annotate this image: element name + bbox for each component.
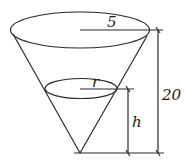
label-water-height: h — [132, 113, 142, 131]
label-cone-height: 20 — [161, 86, 182, 104]
cone-left-side — [13, 34, 80, 153]
label-water-radius: r — [92, 73, 100, 91]
label-top-radius: 5 — [107, 13, 117, 31]
cone-right-side — [80, 36, 147, 153]
cone-diagram: 5 r h 20 — [0, 0, 186, 167]
